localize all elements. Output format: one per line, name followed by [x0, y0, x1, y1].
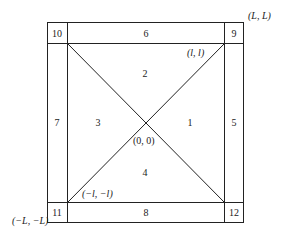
region-6-label: 6: [144, 28, 149, 39]
region-8-label: 8: [144, 207, 149, 218]
region-1-label: 1: [188, 117, 193, 128]
region-2-label: 2: [143, 68, 148, 79]
region-5-label: 5: [232, 117, 237, 128]
coord-outer-bottom-left: (−L, −L): [12, 215, 49, 227]
coord-outer-top-right: (L, L): [248, 10, 271, 22]
coord-inner-top-right: (l, l): [187, 47, 205, 59]
domain-partition-diagram: 1 2 3 4 5 6 7 8 9 10 11 12 (L, L) (l, l)…: [0, 0, 283, 237]
coord-inner-bottom-left: (−l, −l): [82, 188, 113, 200]
region-12-label: 12: [229, 207, 239, 218]
region-7-label: 7: [55, 117, 60, 128]
region-4-label: 4: [143, 167, 148, 178]
region-3-label: 3: [96, 117, 101, 128]
region-11-label: 11: [52, 207, 62, 218]
region-9-label: 9: [232, 28, 237, 39]
region-10-label: 10: [52, 28, 62, 39]
coord-center: (0, 0): [133, 135, 155, 147]
